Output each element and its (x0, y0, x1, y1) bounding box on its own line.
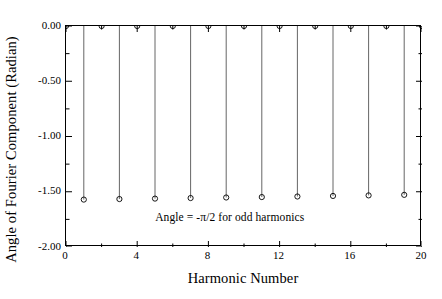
x-axis-tick-labels: 048121620 (65, 250, 421, 264)
y-axis-tick-label: -1.00 (38, 130, 61, 141)
y-axis-tick-label: -0.50 (38, 75, 61, 86)
x-axis-tick-label: 4 (133, 250, 139, 261)
x-axis-tick-label: 20 (416, 250, 427, 261)
x-axis-title: Harmonic Number (65, 270, 421, 287)
y-axis-tick-label: -1.50 (38, 185, 61, 196)
y-axis-title: Angle of Fourier Component (Radian) (0, 0, 22, 299)
y-axis-tick-label: -2.00 (38, 241, 61, 252)
y-axis-tick-labels: 0.00-0.50-1.00-1.50-2.00 (20, 25, 61, 246)
x-axis-tick-label: 16 (344, 250, 355, 261)
y-axis-tick-label: 0.00 (42, 20, 61, 31)
plot-area: Angle = -π/2 for odd harmonics (65, 25, 421, 246)
x-axis-tick-label: 0 (62, 250, 68, 261)
x-axis-tick-label: 12 (273, 250, 284, 261)
plot-annotation: Angle = -π/2 for odd harmonics (155, 211, 304, 223)
x-axis-tick-label: 8 (205, 250, 211, 261)
figure: Angle of Fourier Component (Radian) 0.00… (0, 0, 442, 299)
